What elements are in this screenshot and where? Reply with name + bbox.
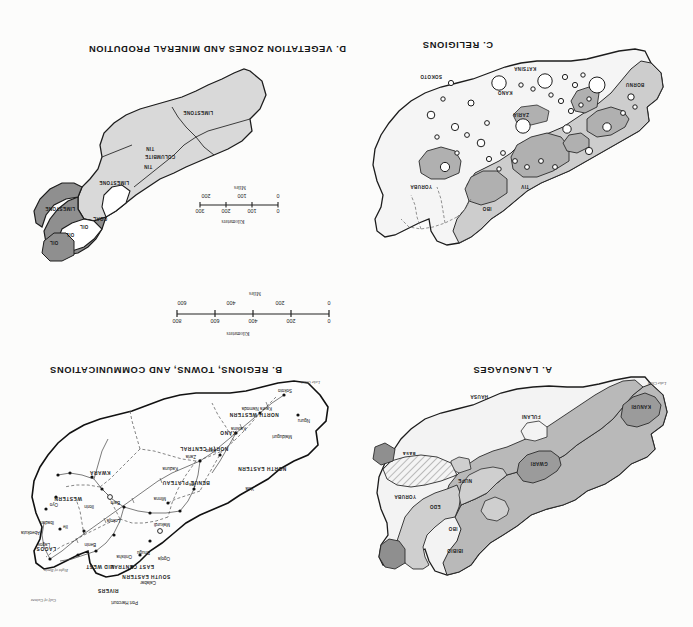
scale-d-mi-1: 100	[238, 193, 247, 199]
panel-c-religions: IBO TIV YORUBA ZARIA KANO BORNU KATSINA …	[347, 0, 693, 313]
region-north-western: NORTH WESTERN	[229, 412, 279, 417]
label-oil-2: OIL	[66, 232, 75, 237]
town-port-harcourt: Port Harcourt	[110, 600, 138, 605]
town-nguru: Nguru	[297, 418, 310, 423]
town-oyo: Oyo	[49, 502, 58, 507]
town-minna: Minna	[153, 496, 166, 501]
panel-d-vegetation: OIL OIL OIL COAL LIMESTONE LIMESTONE LIM…	[0, 0, 346, 313]
scale-c-mi-1: 200	[276, 300, 285, 306]
town-calabar: Calabar	[140, 580, 156, 585]
label-basa: BASA	[403, 451, 416, 456]
town-maiduguri: Maiduguri	[272, 434, 292, 439]
town-ibadan: Ibadan	[40, 520, 54, 525]
label-nupe: NUPE	[458, 478, 472, 483]
label-kano: KANO	[497, 90, 512, 95]
town-katsina: Katsina	[230, 426, 246, 431]
region-east-central: EAST CENTRAL	[110, 564, 154, 569]
scale-c-mi-2: 400	[227, 300, 236, 306]
scale-d-km-2: 200	[222, 208, 231, 214]
panel-c-map: IBO TIV YORUBA ZARIA KANO BORNU KATSINA …	[347, 0, 693, 313]
panel-d-scale-bar: Kilometers 0 100 200 300 0 100 200 Miles	[178, 185, 288, 227]
town-sokoto: Sokoto	[277, 388, 292, 393]
panel-a-map: IBIBIO IBO EDO YORUBA NUPE GWARI KANURI …	[347, 313, 693, 627]
scale-c-km-0: 0	[328, 318, 331, 324]
label-tin-2: TIN	[145, 146, 154, 151]
panel-c-title: C. RELIGIONS	[422, 40, 493, 50]
label-sokoto: SOKOTO	[420, 74, 442, 79]
town-kaduna: Kaduna	[162, 466, 178, 471]
label-tin-1: TIN	[143, 164, 152, 169]
town-ogoja: Ogoja	[157, 556, 170, 561]
label-oil-3: OIL	[80, 224, 89, 229]
scale-c-km-3: 600	[211, 318, 220, 324]
label-limestone-1: LIMESTONE	[45, 206, 75, 211]
panel-a-title: A. LANGUAGES	[473, 365, 552, 375]
label-ibo: IBO	[482, 206, 491, 211]
town-benin: Benin	[84, 542, 96, 547]
town-ife: Ife	[62, 524, 68, 529]
label-gulf-of-guinea: Gulf of Guinea	[31, 598, 56, 603]
scale-d-kilometers-caption: Kilometers	[221, 219, 244, 225]
town-jos: Jos	[188, 482, 196, 487]
scale-c-axis	[177, 310, 329, 317]
panel-d-scale-svg: Kilometers 0 100 200 300 0 100 200 Miles	[178, 185, 288, 227]
regions-country-shape	[32, 381, 328, 577]
label-tiv: TIV	[520, 184, 529, 189]
town-kaura-namoda: Kaura Namoda	[241, 406, 272, 411]
label-lake-chad: Lake Chad	[301, 380, 321, 385]
scale-d-mi-0: 0	[277, 193, 280, 199]
label-katsina: KATSINA	[513, 66, 536, 71]
town-kano: Kano	[205, 448, 216, 453]
scale-c-kilometers-caption: Kilometers	[226, 331, 249, 337]
region-rivers: RIVERS	[97, 588, 118, 593]
scale-d-km-3: 300	[196, 208, 205, 214]
label-kanuri: KANURI	[631, 404, 651, 409]
panel-d-title: D. VEGETATION ZONES AND MINERAL PRODUTIO…	[88, 44, 346, 54]
label-gwari: GWARI	[530, 461, 547, 466]
scale-d-km-0: 0	[277, 208, 280, 214]
panel-a-languages: IBIBIO IBO EDO YORUBA NUPE GWARI KANURI …	[347, 313, 693, 627]
scale-c-km-1: 200	[287, 318, 296, 324]
label-yoruba: YORUBA	[394, 494, 416, 499]
town-abeokuta: Abeokuta	[20, 530, 40, 535]
label-oil-1: OIL	[50, 240, 59, 245]
region-kwara: KWARA	[90, 470, 111, 475]
map-plate: IBIBIO IBO EDO YORUBA NUPE GWARI KANURI …	[0, 0, 693, 627]
label-zaria: ZARIA	[513, 112, 529, 117]
label-ibo: IBO	[448, 526, 457, 531]
label-hausa: HAUSA	[470, 394, 488, 399]
label-edo: EDO	[429, 504, 440, 509]
scale-c-miles-caption: Miles	[249, 291, 261, 297]
town-ilorin: Ilorin	[84, 504, 94, 509]
label-yoruba: YORUBA	[410, 184, 432, 189]
panel-b-map: NORTH WESTERN NORTH CENTRAL KANO NORTH E…	[0, 313, 346, 627]
scale-c-km-4: 800	[173, 318, 182, 324]
region-south-eastern: SOUTH EASTERN	[122, 574, 170, 579]
region-north-eastern: NORTH EASTERN	[238, 466, 287, 471]
center-scale-bar: Kilometers 0 200 400 600 800 0 200 400 6…	[133, 289, 343, 341]
town-zaria: Zaria	[185, 454, 196, 459]
town-baro: Baro	[110, 500, 120, 505]
panel-b-regions: NORTH WESTERN NORTH CENTRAL KANO NORTH E…	[0, 313, 346, 627]
center-scale-svg: Kilometers 0 200 400 600 800 0 200 400 6…	[133, 289, 343, 341]
label-bight-of-benin: Bight of Benin	[44, 568, 68, 573]
scale-d-km-1: 100	[248, 208, 257, 214]
scale-d-mi-2: 200	[202, 193, 211, 199]
town-lagos: Lagos	[37, 542, 50, 547]
town-enugu: Enugu	[136, 550, 150, 555]
town-onitsha: Onitsha	[116, 554, 132, 559]
panel-b-title: B. REGIONS, TOWNS, AND COMMUNICATIONS	[49, 365, 282, 375]
label-coal: COAL	[93, 216, 107, 221]
scale-c-mi-0: 0	[328, 300, 331, 306]
region-north-central: NORTH CENTRAL	[180, 446, 229, 451]
label-limestone-3: LIMESTONE	[183, 110, 213, 115]
town-yola: Yola	[245, 486, 254, 491]
scale-c-mi-3: 600	[178, 300, 187, 306]
town-makurdi: Makurdi	[154, 522, 170, 527]
label-bornu: BORNU	[625, 82, 644, 87]
region-western: WESTERN	[54, 496, 82, 501]
town-lokoja: Lokoja	[106, 518, 120, 523]
label-lake-chad: Lake Chad	[647, 381, 667, 386]
scale-d-miles-caption: Miles	[234, 185, 246, 191]
languages-zone-basa-dark-tip	[373, 443, 395, 465]
